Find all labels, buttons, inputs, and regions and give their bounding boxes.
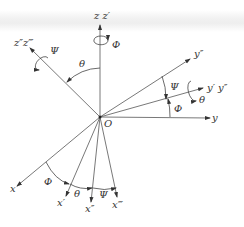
label-z-triple: z″z‴ [13,37,34,48]
label-phi-right: Φ [174,103,182,114]
x-triple-axis [100,117,117,197]
label-psi-right: Ψ [170,81,180,92]
euler-angle-diagram: z z′ z″z‴ y″ y′ y″ y x x′ x″ x‴ O Φ Ψ θ … [0,0,244,227]
x-axis [17,117,100,186]
theta-arc-top [67,68,100,82]
label-x-double: x″ [85,203,95,214]
origin-point [99,116,102,119]
psi-arc-right [162,76,166,99]
label-psi-top: Ψ [50,45,60,56]
x-prime-axis [66,117,100,196]
label-theta-bottom: θ [74,188,80,199]
phi-rotation-z [94,36,108,45]
label-x-prime: x′ [57,197,66,208]
label-origin: O [104,118,112,129]
label-x: x [10,183,16,194]
y-prime-axis [100,88,203,117]
label-x-triple: x‴ [112,199,124,210]
phi-arc-right [168,99,170,117]
label-phi-bottom: Φ [44,176,52,187]
y-axis [100,117,210,118]
label-theta-top: θ [79,58,85,69]
label-z: z z′ [93,10,111,21]
label-phi-top: Φ [112,39,120,50]
label-theta-right: θ [199,94,205,105]
label-psi-bottom: Ψ [99,189,109,200]
label-y-double: y″ [193,48,204,59]
label-y-prime: y′ y″ [206,82,228,93]
label-y: y [211,112,218,123]
